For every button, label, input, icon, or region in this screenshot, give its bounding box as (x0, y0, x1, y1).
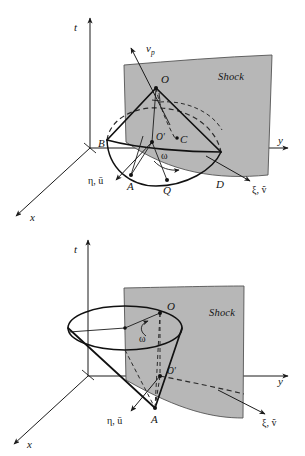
xi-axis-label: ξ, ṽ (252, 184, 266, 196)
shock-label: Shock (209, 307, 235, 318)
y-axis-label: y (277, 134, 283, 146)
point-Q-dot (165, 178, 169, 182)
point-O-prime-label: O' (167, 366, 177, 376)
point-Q-label: Q (163, 184, 171, 196)
x-axis-label: x (26, 438, 32, 450)
figure-root: t y x Shock (0, 0, 305, 456)
point-A-dot (153, 406, 157, 410)
shock-label: Shock (218, 71, 244, 82)
radius-center-to-left (69, 328, 125, 332)
attached-shock-cone-panel: t y x Shock (0, 0, 305, 228)
xi-axis-label: ξ, ṽ (262, 417, 276, 429)
point-O-label: O (161, 73, 169, 85)
point-O-prime-dot (158, 374, 162, 378)
velocity-vp-subscript: p (150, 48, 155, 57)
point-A-label: A (150, 413, 158, 425)
x-axis-line (16, 148, 90, 216)
t-axis-label: t (74, 21, 78, 33)
shock-surface (124, 55, 272, 176)
point-C-dot (175, 136, 179, 140)
point-C-label: C (180, 133, 188, 145)
point-A-label: A (126, 180, 134, 192)
eta-axis-label: η, ū (107, 415, 122, 426)
ellipse-center-dot (123, 326, 127, 330)
x-axis-label: x (29, 211, 35, 223)
x-axis-line (14, 376, 88, 444)
velocity-vp-label: vp (146, 42, 155, 57)
point-B-label: B (98, 137, 105, 149)
omega-label: ω (139, 333, 146, 344)
y-axis-label: y (277, 375, 283, 387)
eta-axis-label: η, ū (88, 175, 103, 186)
t-axis-label: t (74, 243, 78, 255)
omega-label: ω (161, 150, 168, 161)
point-D-label: D (215, 178, 224, 190)
point-O-prime-dot (150, 140, 154, 144)
point-O-label: O (167, 300, 175, 312)
point-O-dot (158, 311, 162, 315)
detached-shock-cone-panel: t y x Shock (0, 228, 305, 456)
point-O-prime-label: O' (156, 132, 166, 142)
point-A-dot (129, 173, 133, 177)
point-O-dot (154, 86, 158, 90)
